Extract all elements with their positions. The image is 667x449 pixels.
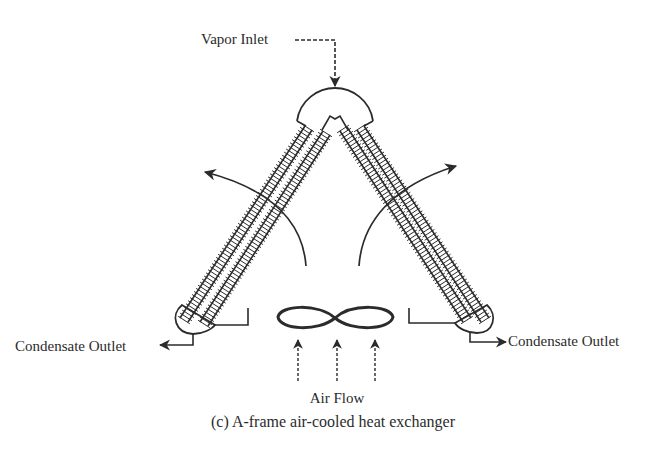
air-flow-label: Air Flow	[310, 390, 365, 406]
right-tube-bundle	[337, 124, 491, 324]
right-condensate-arrow-icon	[470, 333, 506, 342]
vapor-inlet-arrow-icon	[295, 40, 335, 86]
left-condensate-arrow-icon	[160, 334, 193, 345]
left-tube-bundle	[178, 124, 332, 328]
figure-caption: (c) A-frame air-cooled heat exchanger	[211, 413, 456, 431]
right-bracket	[409, 308, 455, 323]
left-bracket	[215, 308, 248, 325]
a-frame-heat-exchanger-diagram: Vapor Inlet Condensate Outlet Condensate…	[0, 0, 667, 449]
vapor-inlet-label: Vapor Inlet	[201, 31, 269, 47]
right-condensate-outlet-label: Condensate Outlet	[508, 333, 620, 349]
left-condensate-outlet-label: Condensate Outlet	[15, 338, 127, 354]
diagram-canvas: Vapor Inlet Condensate Outlet Condensate…	[0, 0, 667, 449]
top-header-right-edge	[364, 121, 373, 126]
top-header-dome	[297, 88, 373, 121]
fan-icon	[278, 307, 393, 327]
